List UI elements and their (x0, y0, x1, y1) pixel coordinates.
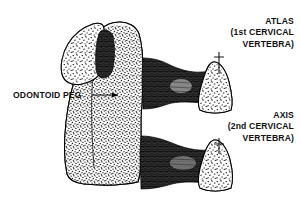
atlas-label-line3: VERTEBRA) (231, 39, 294, 50)
svg-text:·: · (128, 177, 129, 182)
axis-label-line1: AXIS (228, 110, 294, 121)
upper-left-cortical-band (96, 30, 115, 78)
atlas-label: ATLAS (1st CERVICAL VERTEBRA) (231, 16, 294, 50)
axis-label-line2: (2nd CERVICAL (228, 121, 294, 132)
atlas-label-line1: ATLAS (231, 16, 294, 27)
axis-label: AXIS (2nd CERVICAL VERTEBRA) (228, 110, 294, 144)
axis-label-line3: VERTEBRA) (228, 133, 294, 144)
atlas-label-line2: (1st CERVICAL (231, 27, 294, 38)
odontoid-peg-label: ODONTOID PEG (13, 90, 82, 101)
